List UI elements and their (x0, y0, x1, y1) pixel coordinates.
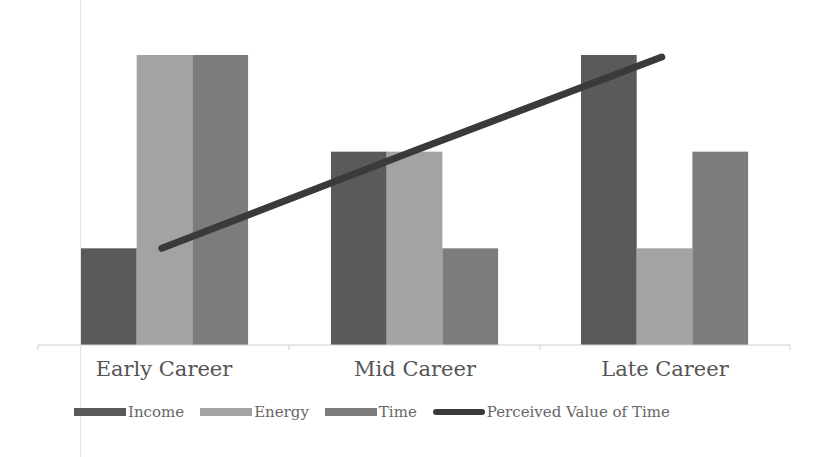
legend-item-energy: Energy (200, 403, 309, 421)
category-label-mid-career: Mid Career (290, 357, 540, 381)
time-swatch-icon (325, 408, 377, 416)
legend-label: Perceived Value of Time (487, 403, 670, 421)
bar-energy-mid-career (387, 152, 443, 345)
legend-item-perceived-value: Perceived Value of Time (433, 403, 670, 421)
category-label-early-career: Early Career (39, 357, 289, 381)
line-swatch-icon (433, 409, 485, 415)
bar-income-late-career (581, 55, 637, 345)
category-label-late-career: Late Career (540, 357, 790, 381)
bar-energy-late-career (637, 248, 693, 345)
energy-swatch-icon (200, 408, 252, 416)
bar-energy-early-career (137, 55, 193, 345)
legend-label: Energy (254, 403, 309, 421)
legend-label: Income (128, 403, 184, 421)
bar-time-late-career (692, 152, 748, 345)
legend-item-time: Time (325, 403, 417, 421)
income-swatch-icon (74, 408, 126, 416)
bar-income-early-career (81, 248, 137, 345)
legend-item-income: Income (74, 403, 184, 421)
bar-time-early-career (192, 55, 248, 345)
bar-time-mid-career (442, 248, 498, 345)
chart-legend: Income Energy Time Perceived Value of Ti… (74, 403, 686, 421)
chart-plot-area (0, 0, 830, 457)
legend-label: Time (379, 403, 417, 421)
bar-series-group (81, 55, 748, 345)
